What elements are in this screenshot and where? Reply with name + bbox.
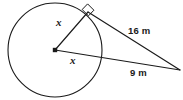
tangent-segment-line bbox=[88, 12, 180, 70]
label-tangent-length: 16 m bbox=[128, 26, 150, 36]
center-dot-marker bbox=[53, 48, 57, 52]
label-x-radius: x bbox=[56, 17, 62, 28]
geometry-figure: x x 16 m 9 m bbox=[0, 0, 183, 100]
label-external-segment-length: 9 m bbox=[130, 68, 147, 78]
label-x-secant: x bbox=[70, 55, 76, 66]
geometry-canvas bbox=[0, 0, 183, 100]
